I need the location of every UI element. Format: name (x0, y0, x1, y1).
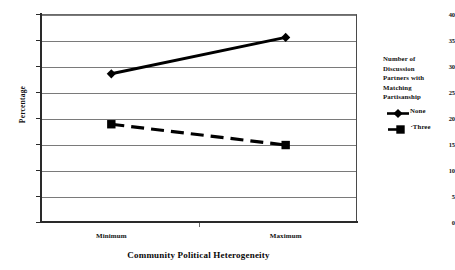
legend-entry-three[interactable]: ·Three (383, 119, 455, 134)
x-tick-label: Maximum (241, 232, 331, 241)
legend-sample-three (387, 121, 409, 132)
legend-label: None (410, 107, 426, 114)
y-tick-label: 5 (421, 193, 455, 200)
x-axis-title: Community Political Heterogeneity (40, 250, 357, 260)
legend-title-line: Matching (383, 83, 449, 93)
x-axis-center-tick (199, 223, 200, 227)
y-tick-label: 40 (421, 11, 455, 18)
data-point-marker-square (281, 141, 289, 149)
legend: Number ofDiscussionPartners withMatching… (383, 54, 455, 134)
x-tick-label: Minimum (66, 232, 156, 241)
legend-title: Number ofDiscussionPartners withMatching… (383, 54, 449, 102)
legend-title-line: Number of (383, 54, 449, 64)
data-point-marker-diamond (107, 69, 116, 78)
legend-label: ·Three (411, 123, 431, 130)
legend-sample-none (387, 105, 409, 116)
legend-title-line: Partisanship (383, 92, 449, 102)
series-line-none (111, 37, 285, 73)
y-tick-label: 0 (421, 219, 455, 226)
y-tick-label: 10 (421, 167, 455, 174)
data-series-layer (40, 14, 357, 222)
data-point-marker-square (396, 125, 404, 133)
series-line-three (111, 124, 285, 145)
y-tick-label: 15 (421, 141, 455, 148)
legend-entries: None·Three (383, 103, 455, 134)
figure-line-chart: 0510152025303540 MinimumMaximum Percenta… (0, 0, 455, 270)
legend-title-line: Partners with (383, 73, 449, 83)
y-axis-title: Percentage (18, 65, 27, 145)
data-point-marker-diamond (393, 109, 402, 118)
data-point-marker-diamond (281, 33, 290, 42)
data-point-marker-square (107, 120, 115, 128)
legend-title-line: Discussion (383, 64, 449, 74)
y-tick-label: 35 (421, 37, 455, 44)
legend-entry-none[interactable]: None (383, 103, 455, 118)
